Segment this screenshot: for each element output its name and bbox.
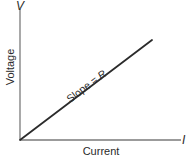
vi-diagram: V I Voltage Current Slope = R [0, 0, 189, 161]
x-axis-label: Current [83, 145, 120, 157]
y-axis-label: Voltage [4, 49, 16, 86]
slope-label: Slope = R [64, 67, 109, 105]
y-axis-symbol: V [16, 0, 25, 13]
slope-label-prefix: Slope = [64, 72, 102, 105]
x-axis-symbol: I [182, 133, 186, 147]
